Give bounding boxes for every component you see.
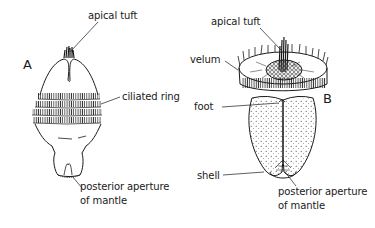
panel-b-letter: B — [323, 93, 332, 104]
panel-b-label-foot: foot — [194, 101, 213, 112]
panel-b-label-velum: velum — [190, 54, 220, 65]
panel-a-letter: A — [23, 59, 32, 70]
panel-b-label-posterior-aperture: posterior aperture — [278, 186, 367, 197]
panel-a-larva — [32, 46, 102, 178]
panel-a-apical-tuft-icon — [64, 46, 74, 58]
panel-a-label-of-mantle: of mantle — [80, 195, 127, 206]
panel-b-larva — [238, 37, 328, 178]
panel-a-label-apical-tuft: apical tuft — [88, 10, 137, 21]
panel-b-label-of-mantle: of mantle — [278, 200, 325, 211]
panel-a-label-ciliated-ring: ciliated ring — [122, 91, 180, 102]
panel-b-label-shell: shell — [197, 170, 220, 181]
panel-b-label-apical-tuft: apical tuft — [211, 16, 260, 27]
panel-a-ciliated-ring — [32, 93, 102, 124]
panel-a-label-posterior-aperture: posterior aperture — [80, 181, 169, 192]
